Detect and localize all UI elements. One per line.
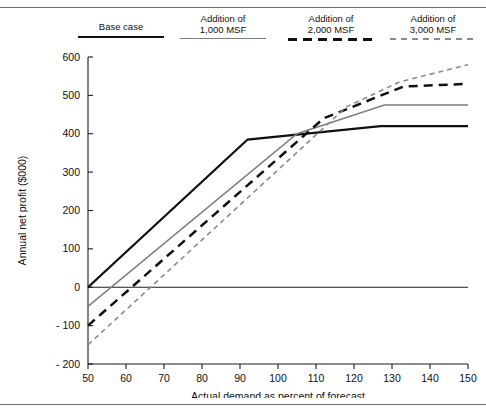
x-tick-label: 50 bbox=[82, 372, 94, 384]
legend-label-line1: Addition of bbox=[390, 14, 476, 25]
top-rule bbox=[0, 7, 486, 8]
chart-legend: Base case Addition of 1,000 MSF Addition… bbox=[0, 14, 486, 48]
chart-plot-area: - 200- 100010020030040050060050607080901… bbox=[0, 48, 486, 398]
x-tick-label: 70 bbox=[158, 372, 170, 384]
legend-label-line1: Addition of bbox=[180, 14, 266, 25]
legend-swatch-dashed-black-icon bbox=[288, 38, 374, 41]
series-line-dash-gray bbox=[88, 65, 468, 345]
legend-item-addition-2000-msf: Addition of 2,000 MSF bbox=[288, 14, 374, 41]
line-chart: - 200- 100010020030040050060050607080901… bbox=[0, 48, 486, 398]
y-tick-label: 400 bbox=[62, 127, 80, 139]
x-axis-title: Actual demand as percent of forecast bbox=[191, 390, 365, 398]
legend-label-line2: 1,000 MSF bbox=[180, 25, 266, 36]
legend-swatch-solid-black-icon bbox=[78, 36, 164, 42]
x-tick-label: 120 bbox=[345, 372, 363, 384]
y-axis-title: Annual net profit ($000) bbox=[16, 156, 28, 266]
bottom-rule bbox=[0, 404, 486, 405]
y-tick-label: - 200 bbox=[56, 358, 80, 370]
x-tick-label: 140 bbox=[421, 372, 439, 384]
x-tick-label: 80 bbox=[196, 372, 208, 384]
legend-label-line2: Base case bbox=[78, 22, 164, 33]
y-tick-label: 500 bbox=[62, 89, 80, 101]
y-tick-label: 200 bbox=[62, 204, 80, 216]
y-tick-label: 300 bbox=[62, 166, 80, 178]
x-tick-label: 100 bbox=[269, 372, 287, 384]
figure-root: Base case Addition of 1,000 MSF Addition… bbox=[0, 0, 486, 416]
legend-label-line2: 2,000 MSF bbox=[288, 25, 374, 36]
legend-item-addition-3000-msf: Addition of 3,000 MSF bbox=[390, 14, 476, 40]
x-tick-label: 130 bbox=[383, 372, 401, 384]
legend-swatch-dashed-gray-icon bbox=[390, 38, 476, 40]
y-tick-label: 0 bbox=[74, 281, 80, 293]
x-tick-label: 150 bbox=[459, 372, 477, 384]
x-tick-label: 110 bbox=[308, 372, 325, 384]
legend-label-line2: 3,000 MSF bbox=[390, 25, 476, 36]
x-tick-label: 90 bbox=[234, 372, 246, 384]
y-tick-label: 600 bbox=[62, 51, 80, 63]
legend-label-line1: Addition of bbox=[288, 14, 374, 25]
x-tick-label: 60 bbox=[120, 372, 132, 384]
legend-swatch-solid-gray-icon bbox=[180, 38, 266, 43]
y-tick-label: 100 bbox=[62, 242, 80, 254]
y-tick-label: - 100 bbox=[56, 319, 80, 331]
legend-item-addition-1000-msf: Addition of 1,000 MSF bbox=[180, 14, 266, 43]
series-line-dash-black bbox=[88, 84, 468, 326]
legend-item-base-case: Base case bbox=[78, 22, 164, 42]
